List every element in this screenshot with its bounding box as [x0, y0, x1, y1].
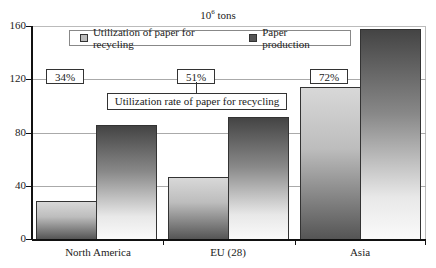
- ytick-label-120: 120: [0, 72, 26, 84]
- legend-item-utilization: Utilization of paper for recycling: [80, 26, 235, 50]
- rate-label-connector: [196, 82, 197, 93]
- bar-north-america-production: [96, 125, 157, 240]
- rate-label: Utilization rate of paper for recycling: [107, 93, 287, 110]
- ytick-label-80: 80: [0, 126, 26, 138]
- bar-eu-utilization: [168, 177, 229, 240]
- ytick-160: [26, 26, 32, 27]
- legend: Utilization of paper for recycling Paper…: [69, 30, 351, 46]
- bar-eu-production: [228, 117, 289, 240]
- ytick-label-160: 160: [0, 19, 26, 31]
- xtick-1: [163, 240, 164, 245]
- ytick-0: [26, 239, 32, 240]
- legend-swatch-utilization-icon: [80, 34, 88, 42]
- x-axis: [32, 239, 426, 241]
- bar-asia-production: [360, 29, 421, 240]
- x-label-north-america: North America: [33, 246, 163, 258]
- ytick-80: [26, 133, 32, 134]
- xtick-2: [295, 240, 296, 245]
- x-label-asia: Asia: [295, 246, 425, 258]
- rate-badge-asia: 72%: [310, 69, 348, 84]
- ytick-label-0: 0: [0, 232, 26, 244]
- legend-label-utilization: Utilization of paper for recycling: [93, 26, 235, 50]
- legend-item-production: Paper production: [249, 26, 336, 50]
- chart-title: 106 tons: [0, 8, 436, 21]
- ytick-40: [26, 186, 32, 187]
- bar-north-america-utilization: [36, 201, 97, 240]
- rate-badge-north-america: 34%: [46, 69, 84, 84]
- ytick-label-40: 40: [0, 179, 26, 191]
- plot-area: 0 40 80 120 160: [32, 26, 426, 240]
- legend-swatch-production-icon: [249, 34, 257, 42]
- ytick-120: [26, 79, 32, 80]
- bar-asia-utilization: [300, 87, 361, 240]
- xtick-3: [425, 240, 426, 245]
- x-label-eu: EU (28): [163, 246, 293, 258]
- legend-label-production: Paper production: [262, 26, 336, 50]
